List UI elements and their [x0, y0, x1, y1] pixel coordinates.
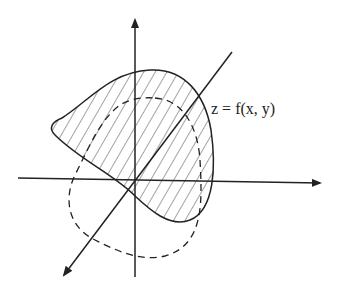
surface-label: z = f(x, y): [211, 100, 275, 118]
diagram-canvas: z = f(x, y): [0, 0, 338, 293]
surface-region: [51, 70, 213, 222]
